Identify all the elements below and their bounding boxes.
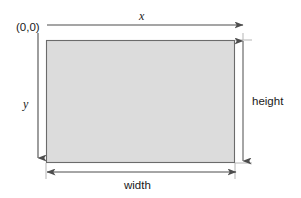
width-label: width [124, 180, 151, 192]
height-label: height [252, 96, 283, 108]
x-axis-label: x [139, 10, 144, 22]
surface-rectangle [47, 41, 235, 163]
origin-label: (0,0) [16, 22, 40, 34]
figure-canvas: (0,0) x y height width [0, 0, 301, 198]
y-axis-label: y [23, 98, 28, 110]
